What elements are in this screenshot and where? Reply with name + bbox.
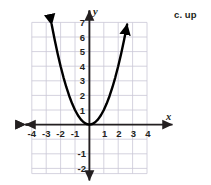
answer-choice-note: c. up: [174, 9, 197, 20]
y-axis-label: y: [91, 6, 98, 17]
y-tick-label: 3: [80, 75, 85, 86]
y-tick-label: -2: [78, 163, 86, 174]
y-tick-label: 6: [80, 32, 85, 43]
x-tick-label: -3: [42, 128, 50, 139]
y-tick-label: 5: [80, 46, 86, 57]
x-tick-label: -4: [28, 128, 37, 139]
x-tick-label: 2: [116, 128, 121, 139]
y-tick-label: -1: [78, 148, 87, 159]
x-tick-label: -1: [71, 128, 80, 139]
x-axis-label: x: [165, 111, 171, 122]
x-tick-label: 1: [102, 128, 108, 139]
y-tick-label: 1: [80, 105, 86, 116]
y-tick-label: 7: [80, 17, 85, 28]
graph-figure: x y -4 -3 -2 -1 1 2 3 4 7 6 5 4 3 2 1 -1…: [0, 0, 211, 185]
y-tick-label: 2: [80, 90, 85, 101]
parabola-coordinate-plane: x y -4 -3 -2 -1 1 2 3 4 7 6 5 4 3 2 1 -1…: [0, 0, 211, 185]
x-tick-label: -2: [56, 128, 64, 139]
x-tick-label: 3: [131, 128, 136, 139]
y-tick-label: 4: [80, 61, 86, 72]
x-tick-label: 4: [145, 128, 151, 139]
